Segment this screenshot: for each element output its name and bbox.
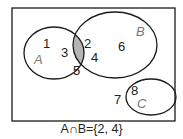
venn-diagram: 1 3 2 4 5 6 7 8 A B C [0, 0, 183, 139]
element-6: 6 [118, 39, 125, 54]
set-c-label: C [137, 96, 147, 111]
element-2: 2 [84, 36, 91, 51]
element-7: 7 [114, 92, 121, 107]
set-b-label: B [136, 24, 145, 39]
element-1: 1 [43, 36, 50, 51]
intersection-caption: A∩B={2, 4} [0, 122, 183, 136]
element-5: 5 [73, 63, 80, 78]
element-3: 3 [61, 45, 68, 60]
element-4: 4 [91, 50, 98, 65]
set-a-label: A [33, 52, 43, 67]
